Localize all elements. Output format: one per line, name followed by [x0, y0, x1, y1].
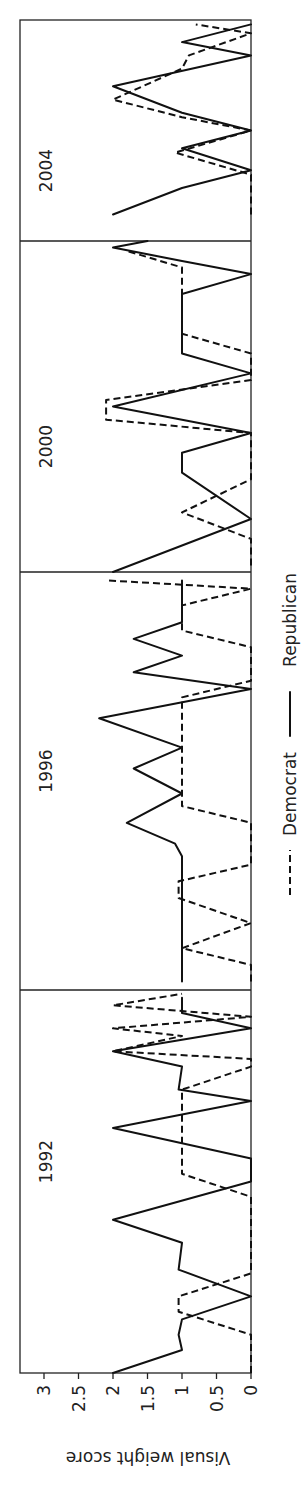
visual-weight-chart: 1992199620002004 00.511.522.53 Visual we…	[0, 0, 307, 1492]
democrat-line	[113, 994, 251, 1373]
y-tick-label: 1	[172, 1385, 192, 1396]
democrat-line	[106, 580, 251, 981]
panel-2000: 2000	[36, 241, 251, 572]
panel-title: 1992	[36, 1140, 56, 1183]
panel-1996: 1996	[36, 580, 251, 981]
plot-lines: 1992199620002004	[36, 24, 251, 1373]
y-tick-label: 3	[34, 1385, 54, 1396]
legend-democrat-label: Democrat	[280, 752, 300, 836]
democrat-line	[113, 24, 251, 214]
panel-title: 1996	[36, 749, 56, 792]
y-tick-label: 2	[103, 1385, 123, 1396]
democrat-line	[106, 251, 251, 566]
panel-title: 2000	[36, 425, 56, 468]
republican-line	[99, 580, 251, 981]
panel-2004: 2004	[36, 24, 251, 214]
panel-1992: 1992	[36, 994, 251, 1373]
y-tick-label: 2.5	[69, 1385, 89, 1412]
legend-republican-label: Republican	[280, 573, 300, 667]
panel-title: 2004	[36, 149, 56, 192]
republican-line	[113, 24, 251, 214]
y-tick-label: 0.5	[207, 1385, 227, 1412]
y-tick-label: 0	[241, 1385, 261, 1396]
y-tick-label: 1.5	[138, 1385, 158, 1412]
legend: Democrat Republican	[280, 573, 300, 895]
y-axis: 00.511.522.53	[34, 1373, 261, 1412]
y-axis-title: Visual weight score	[66, 1448, 231, 1468]
republican-line	[113, 998, 251, 1373]
